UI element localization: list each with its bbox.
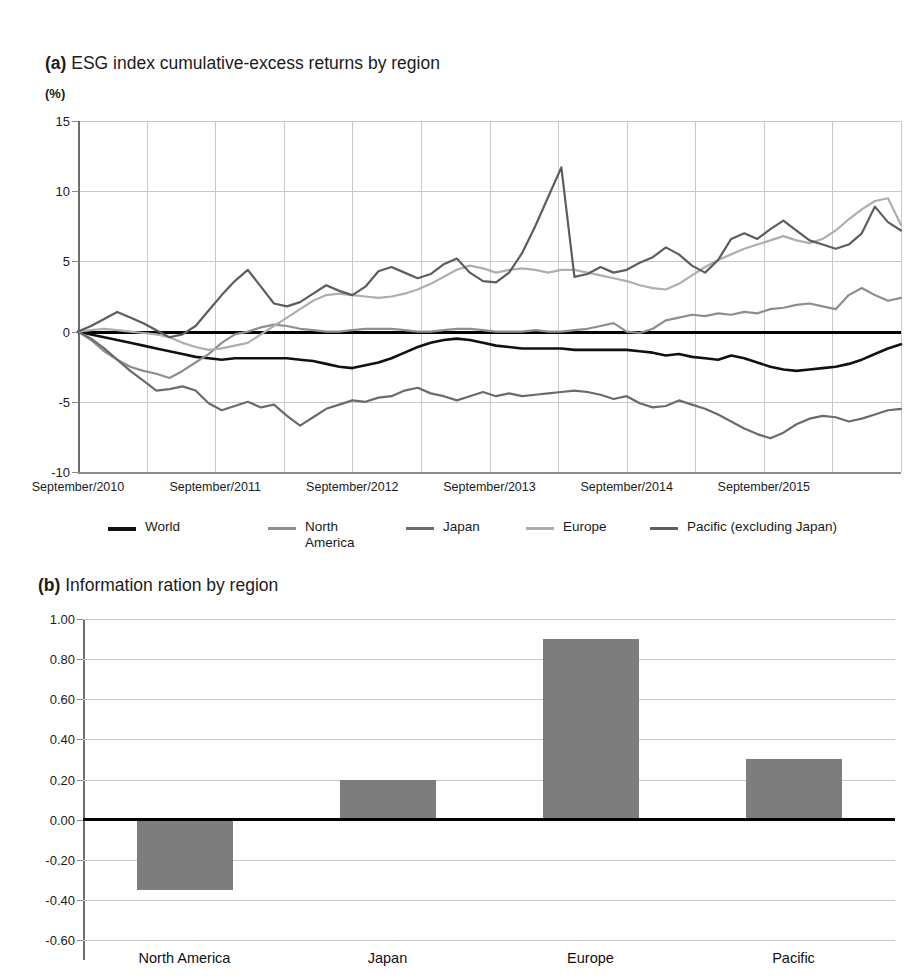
- chart-b-y-tick: [77, 619, 83, 620]
- figure-page: (a) ESG index cumulative-excess returns …: [0, 0, 909, 978]
- chart-b-zero-line: [83, 818, 895, 821]
- bar-europe[interactable]: [543, 639, 639, 820]
- bar-pacific[interactable]: [746, 759, 842, 819]
- chart-b-y-tick-label: -0.40: [13, 892, 75, 907]
- chart-b-y-tick-label: 0.00: [13, 812, 75, 827]
- chart-b-y-tick: [77, 900, 83, 901]
- chart-b-category-label: Japan: [368, 950, 408, 966]
- chart-b-y-tick: [77, 739, 83, 740]
- chart-b-gridline: [83, 940, 895, 941]
- chart-b-gridline: [83, 699, 895, 700]
- chart-b-y-tick-label: -0.60: [13, 933, 75, 948]
- bar-japan[interactable]: [340, 780, 436, 820]
- bar-north-america[interactable]: [137, 820, 233, 890]
- chart-b-y-tick-label: 0.80: [13, 652, 75, 667]
- chart-b-y-tick-label: 0.60: [13, 692, 75, 707]
- chart-b-category-label: Pacific: [772, 950, 815, 966]
- chart-b-category-label: North America: [139, 950, 231, 966]
- chart-b-y-tick: [77, 940, 83, 941]
- chart-b-gridline: [83, 659, 895, 660]
- chart-b-gridline: [83, 900, 895, 901]
- chart-b-y-axis: [83, 619, 85, 960]
- chart-b-y-tick: [77, 860, 83, 861]
- chart-b-y-tick-label: 0.40: [13, 732, 75, 747]
- chart-b-y-tick: [77, 699, 83, 700]
- chart-b-gridline: [83, 739, 895, 740]
- chart-b-y-tick-label: 0.20: [13, 772, 75, 787]
- chart-b-y-tick: [77, 780, 83, 781]
- chart-b-y-tick-label: 1.00: [13, 612, 75, 627]
- bar-chart-information-ratio: 1.000.800.600.400.200.00-0.20-0.40-0.60N…: [0, 0, 909, 978]
- chart-b-y-tick: [77, 659, 83, 660]
- chart-b-y-tick-label: -0.20: [13, 852, 75, 867]
- chart-b-category-label: Europe: [567, 950, 614, 966]
- chart-b-gridline: [83, 619, 895, 620]
